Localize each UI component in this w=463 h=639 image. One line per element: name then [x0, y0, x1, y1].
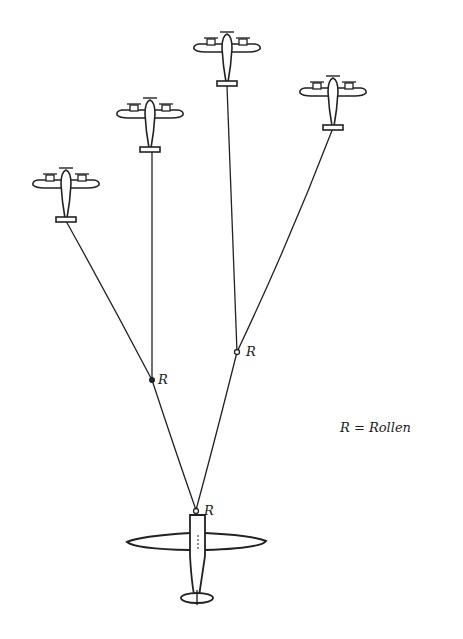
glider-2-icon: [117, 98, 183, 152]
roller-label-3: R: [204, 503, 214, 518]
roller-2-node: [235, 350, 240, 355]
legend: R = Rollen: [340, 420, 411, 435]
roller-1-node: [149, 377, 155, 383]
glider-1-icon: [33, 168, 99, 222]
roller-label-2: R: [246, 344, 256, 359]
roller-label-1: R: [158, 372, 168, 387]
tow-diagram: [0, 0, 463, 639]
glider-3-icon: [194, 32, 260, 86]
tow-plane-icon: [127, 515, 266, 605]
tow-lines: [66, 86, 333, 510]
roller-3-node: [194, 509, 199, 514]
glider-4-icon: [300, 76, 366, 130]
